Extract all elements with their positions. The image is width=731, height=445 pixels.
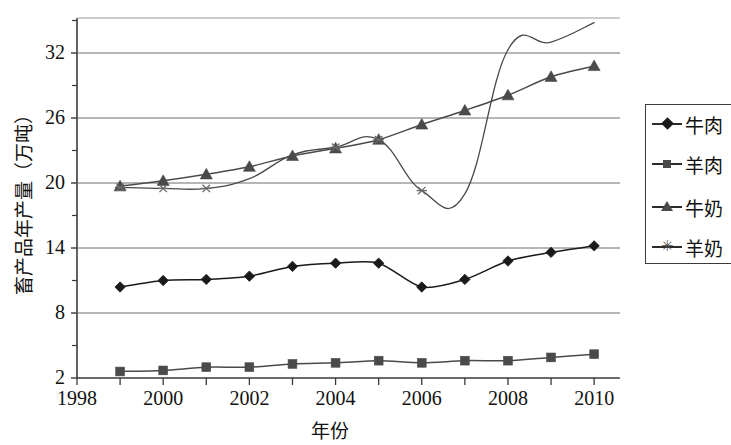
legend-label: 羊奶 [685, 234, 723, 261]
legend-marker-square-icon [652, 156, 682, 172]
series-2 [114, 60, 600, 191]
legend-marker-star-icon: ✳ [652, 239, 682, 255]
legend-marker-triangle-icon [652, 199, 682, 215]
legend-marker-diamond-icon [652, 116, 682, 132]
legend-item-3[interactable]: ✳ 羊奶 [652, 236, 723, 258]
legend-label: 羊肉 [685, 151, 723, 178]
legend-label: 牛奶 [685, 194, 723, 221]
legend-label: 牛肉 [685, 111, 723, 138]
legend-item-2[interactable]: 牛奶 [652, 196, 723, 218]
chart-legend: 牛肉 羊肉 牛奶 ✳ 羊奶 [645, 104, 731, 264]
legend-item-0[interactable]: 牛肉 [652, 113, 723, 135]
legend-item-1[interactable]: 羊肉 [652, 153, 723, 175]
plot-area [0, 0, 731, 445]
series-3 [115, 23, 594, 209]
series-1 [116, 350, 599, 376]
chart-container: 畜产品年产量（万吨） 年份 2814202632 199820002002200… [0, 0, 731, 445]
